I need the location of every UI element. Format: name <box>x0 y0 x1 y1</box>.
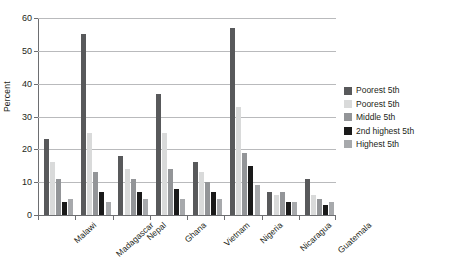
bar <box>236 107 241 215</box>
bar <box>311 195 316 215</box>
legend-item-label: Poorest 5th <box>356 100 399 109</box>
bar <box>193 162 198 215</box>
legend-item[interactable]: Middle 5th <box>344 111 450 124</box>
legend-item-label: Middle 5th <box>356 113 395 122</box>
bar <box>217 199 222 215</box>
legend-item[interactable]: Poorest 5th <box>344 84 450 97</box>
x-axis-tick <box>113 216 114 220</box>
bar <box>305 179 310 215</box>
bar-group <box>156 18 185 215</box>
legend-swatch <box>344 87 352 95</box>
bar <box>292 202 297 215</box>
bar <box>230 28 235 215</box>
x-axis-tick <box>335 216 336 220</box>
bar <box>317 199 322 215</box>
y-axis-tick <box>34 149 38 150</box>
bar <box>180 199 185 215</box>
legend-item[interactable]: 2nd highest 5th <box>344 124 450 137</box>
bar-group <box>305 18 334 215</box>
bar <box>99 192 104 215</box>
y-axis-tick-label: 10 <box>10 177 32 187</box>
bar <box>81 34 86 215</box>
x-axis-tick <box>150 216 151 220</box>
legend: Poorest 5thPoorest 5thMiddle 5th2nd high… <box>344 84 450 151</box>
bar <box>280 192 285 215</box>
bar <box>44 139 49 215</box>
bar-group <box>193 18 222 215</box>
bar <box>329 202 334 215</box>
y-axis-tick <box>34 51 38 52</box>
y-axis-tick-label: 60 <box>10 13 32 23</box>
bar <box>68 199 73 215</box>
legend-item[interactable]: Poorest 5th <box>344 97 450 110</box>
bar <box>248 166 253 215</box>
x-axis-tick <box>299 216 300 220</box>
legend-item-label: Highest 5th <box>356 140 399 149</box>
bar-chart: Percent 0102030405060 Poorest 5thPoorest… <box>0 0 452 279</box>
legend-item-label: 2nd highest 5th <box>356 127 414 136</box>
bar <box>274 195 279 215</box>
legend-swatch <box>344 100 352 108</box>
bar <box>131 179 136 215</box>
y-axis-tick <box>34 84 38 85</box>
bar <box>174 189 179 215</box>
bar <box>143 199 148 215</box>
bar <box>156 94 161 215</box>
legend-swatch <box>344 140 352 148</box>
bar-group <box>81 18 110 215</box>
bar <box>162 133 167 215</box>
bar <box>137 192 142 215</box>
bar <box>199 172 204 215</box>
x-axis-category-label: Nicaragua <box>298 220 333 253</box>
bar <box>267 192 272 215</box>
bar <box>118 156 123 215</box>
legend-swatch <box>344 127 352 135</box>
plot-area: 0102030405060 <box>38 18 336 216</box>
bar <box>125 169 130 215</box>
bar <box>255 185 260 215</box>
bar <box>323 205 328 215</box>
bar <box>56 179 61 215</box>
y-axis-tick <box>34 182 38 183</box>
y-axis-tick-label: 0 <box>10 210 32 220</box>
y-axis-tick-label: 40 <box>10 79 32 89</box>
bar <box>93 172 98 215</box>
bar <box>205 182 210 215</box>
bar <box>242 153 247 215</box>
x-axis-category-label: Ghana <box>183 220 209 245</box>
y-axis-tick <box>34 18 38 19</box>
x-axis-category-label: Malawi <box>71 220 97 245</box>
bar <box>286 202 291 215</box>
bar-group <box>267 18 296 215</box>
bar <box>211 192 216 215</box>
x-axis-category-label: Nigeria <box>258 220 285 245</box>
bar <box>106 202 111 215</box>
bar-group <box>44 18 73 215</box>
bar <box>168 169 173 215</box>
y-axis-tick <box>34 117 38 118</box>
bar <box>62 202 67 215</box>
x-axis-tick <box>75 216 76 220</box>
x-axis-tick <box>224 216 225 220</box>
bar-group <box>118 18 147 215</box>
x-axis-category-label: Vietnam <box>222 220 252 248</box>
y-axis-tick-label: 20 <box>10 144 32 154</box>
legend-item-label: Poorest 5th <box>356 86 399 95</box>
y-axis-tick-label: 50 <box>10 46 32 56</box>
y-axis-tick-label: 30 <box>10 112 32 122</box>
legend-swatch <box>344 113 352 121</box>
bar <box>50 162 55 215</box>
x-axis-tick <box>187 216 188 220</box>
bar <box>87 133 92 215</box>
legend-item[interactable]: Highest 5th <box>344 138 450 151</box>
x-axis-tick <box>38 216 39 220</box>
bar-group <box>230 18 259 215</box>
x-axis-tick <box>262 216 263 220</box>
x-axis-category-label: Guatemala <box>336 220 374 255</box>
